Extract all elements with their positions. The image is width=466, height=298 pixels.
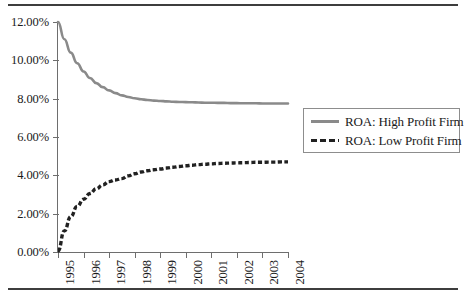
x-tick [135, 252, 136, 258]
x-tick [160, 252, 161, 258]
series-lines [58, 22, 288, 252]
top-rule [8, 4, 458, 6]
y-tick-label: 8.00% [17, 91, 49, 106]
x-tick [58, 252, 59, 258]
chart-figure: 0.00%2.00%4.00%6.00%8.00%10.00%12.00% 19… [0, 0, 466, 298]
y-tick-label: 12.00% [11, 15, 49, 30]
y-tick-label: 6.00% [17, 130, 49, 145]
x-tick [288, 252, 289, 258]
y-tick-label: 2.00% [17, 206, 49, 221]
bottom-rule [8, 288, 458, 290]
y-tick-label: 4.00% [17, 168, 49, 183]
x-tick-label: 1997 [114, 260, 129, 285]
legend-swatch-solid-line-icon [310, 116, 340, 128]
x-tick [237, 252, 238, 258]
x-tick-label: 1998 [140, 260, 155, 285]
x-tick-label: 1995 [63, 260, 78, 285]
x-tick-label: 2002 [242, 260, 257, 285]
x-tick [109, 252, 110, 258]
x-tick-label: 1999 [165, 260, 180, 285]
legend-item-high-profit: ROA: High Profit Firm [310, 112, 459, 131]
series-line [58, 22, 288, 103]
chart-legend: ROA: High Profit Firm ROA: Low Profit Fi… [303, 108, 460, 153]
legend-label: ROA: Low Profit Firm [345, 133, 462, 149]
series-line [58, 162, 288, 251]
x-tick [84, 252, 85, 258]
x-tick [262, 252, 263, 258]
x-tick-label: 1996 [89, 260, 104, 285]
legend-item-low-profit: ROA: Low Profit Firm [310, 131, 459, 150]
x-tick-label: 2004 [293, 260, 308, 285]
x-tick-label: 2003 [267, 260, 282, 285]
legend-swatch-dashed-line-icon [310, 135, 340, 147]
y-tick-label: 0.00% [17, 245, 49, 260]
x-tick [211, 252, 212, 258]
x-tick-label: 2001 [216, 260, 231, 285]
x-axis-line [57, 252, 288, 253]
y-tick-label: 10.00% [11, 53, 49, 68]
x-tick [186, 252, 187, 258]
legend-label: ROA: High Profit Firm [345, 114, 464, 130]
x-tick-label: 2000 [191, 260, 206, 285]
plot-area: 0.00%2.00%4.00%6.00%8.00%10.00%12.00% 19… [58, 22, 288, 252]
